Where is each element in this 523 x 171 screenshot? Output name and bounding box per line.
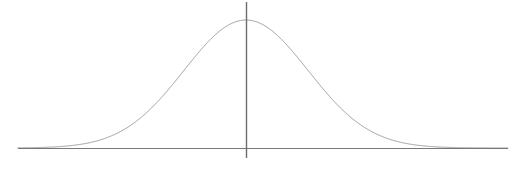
bell-curve-figure xyxy=(0,0,523,171)
chart-background xyxy=(0,0,523,171)
chart-canvas xyxy=(0,0,523,171)
